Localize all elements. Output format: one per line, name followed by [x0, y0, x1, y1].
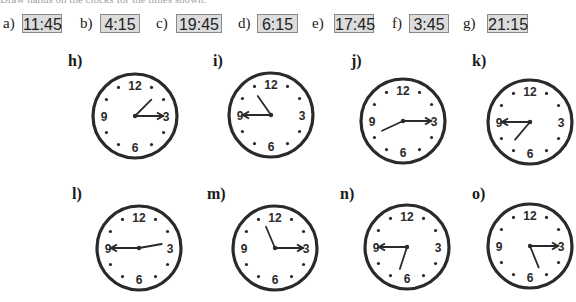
hour-tick-dot	[418, 148, 421, 151]
hour-tick-dot	[430, 136, 433, 139]
clock-center-hub	[269, 113, 273, 117]
analog-clock-icon: 12369	[225, 69, 317, 161]
dial-numeral: 9	[241, 242, 248, 256]
hour-tick-dot	[422, 274, 425, 277]
hour-tick-dot	[500, 104, 503, 107]
option-label: b)	[80, 14, 93, 32]
analog-clock-icon: 12369	[361, 201, 453, 293]
dial-numeral: 6	[136, 273, 143, 287]
analog-clock-icon: 12369	[484, 76, 576, 168]
dial-numeral: 12	[132, 211, 146, 225]
option-label: d)	[238, 14, 251, 32]
hour-tick-dot	[166, 230, 169, 233]
option-label: f)	[392, 14, 402, 32]
clock-label: i)	[213, 52, 223, 70]
hour-tick-dot	[121, 218, 124, 221]
digital-time-box: 17:45	[334, 14, 374, 33]
hour-tick-dot	[150, 86, 153, 89]
dial-numeral: 12	[264, 78, 278, 92]
digital-time-box: 3:45	[409, 14, 449, 33]
hour-tick-dot	[434, 262, 437, 265]
clock-label: j)	[351, 52, 362, 70]
hour-tick-dot	[557, 228, 560, 231]
hour-tick-dot	[512, 92, 515, 95]
hour-tick-dot	[302, 230, 305, 233]
hour-tick-dot	[512, 216, 515, 219]
hour-tick-dot	[150, 143, 153, 146]
hour-tick-dot	[500, 228, 503, 231]
hour-tick-dot	[253, 142, 256, 145]
hour-tick-dot	[105, 98, 108, 101]
clock-center-hub	[401, 119, 405, 123]
clock-center-hub	[273, 246, 277, 250]
hour-tick-dot	[154, 275, 157, 278]
hour-tick-dot	[109, 230, 112, 233]
hour-tick-dot	[286, 142, 289, 145]
hour-tick-dot	[377, 262, 380, 265]
hour-tick-dot	[385, 148, 388, 151]
hour-tick-dot	[545, 273, 548, 276]
hour-tick-dot	[166, 263, 169, 266]
dial-numeral: 6	[527, 147, 534, 161]
hour-tick-dot	[245, 230, 248, 233]
hour-tick-dot	[500, 137, 503, 140]
hour-tick-dot	[117, 86, 120, 89]
clock-label: l)	[72, 185, 82, 203]
option-label: e)	[312, 14, 324, 32]
clock-center-hub	[528, 244, 532, 248]
clock-label: k)	[472, 52, 486, 70]
hour-tick-dot	[245, 263, 248, 266]
digital-time-box: 21:15	[487, 14, 528, 33]
hour-tick-dot	[298, 97, 301, 100]
hour-tick-dot	[290, 218, 293, 221]
dial-numeral: 6	[132, 141, 139, 155]
option-label: g)	[463, 14, 476, 32]
hour-tick-dot	[286, 85, 289, 88]
digital-time-box: 6:15	[257, 14, 298, 33]
hour-tick-dot	[512, 273, 515, 276]
dial-numeral: 3	[435, 241, 442, 255]
hour-tick-dot	[241, 97, 244, 100]
clock-center-hub	[405, 245, 409, 249]
hour-tick-dot	[257, 218, 260, 221]
digital-time-box: 4:15	[100, 14, 140, 33]
option-label: c)	[156, 14, 168, 32]
hour-tick-dot	[290, 275, 293, 278]
dial-numeral: 12	[268, 211, 282, 225]
hour-tick-dot	[545, 92, 548, 95]
clock-label: h)	[68, 52, 82, 70]
dial-numeral: 12	[400, 210, 414, 224]
hour-tick-dot	[545, 149, 548, 152]
clock-center-hub	[528, 120, 532, 124]
cropped-heading: Draw hands on the clocks for the times s…	[0, 0, 300, 3]
clock-label: m)	[207, 185, 226, 203]
dial-numeral: 3	[167, 242, 174, 256]
digital-time-box: 19:45	[176, 14, 222, 33]
hour-tick-dot	[162, 131, 165, 134]
analog-clock-icon: 12369	[357, 75, 449, 167]
hour-tick-dot	[373, 136, 376, 139]
hour-tick-dot	[377, 229, 380, 232]
clock-center-hub	[133, 114, 137, 118]
hour-tick-dot	[302, 263, 305, 266]
hour-tick-dot	[422, 217, 425, 220]
dial-numeral: 6	[404, 272, 411, 286]
hour-tick-dot	[500, 261, 503, 264]
hour-tick-dot	[105, 131, 108, 134]
dial-numeral: 3	[299, 109, 306, 123]
analog-clock-icon: 12369	[484, 200, 576, 292]
hour-tick-dot	[545, 216, 548, 219]
dial-numeral: 9	[369, 115, 376, 129]
dial-numeral: 6	[400, 146, 407, 160]
dial-numeral: 12	[523, 85, 537, 99]
hour-tick-dot	[109, 263, 112, 266]
hour-tick-dot	[418, 91, 421, 94]
dial-numeral: 12	[396, 84, 410, 98]
hour-tick-dot	[241, 130, 244, 133]
hour-tick-dot	[298, 130, 301, 133]
option-label: a)	[3, 14, 15, 32]
dial-numeral: 12	[128, 79, 142, 93]
hour-tick-dot	[162, 98, 165, 101]
hour-tick-dot	[434, 229, 437, 232]
clock-center-hub	[137, 246, 141, 250]
